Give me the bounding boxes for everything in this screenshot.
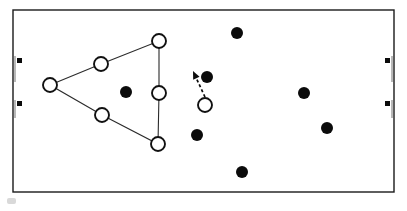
player-marker-filled-7 xyxy=(321,122,333,134)
player-marker-open-6 xyxy=(95,108,109,122)
player-marker-filled-3 xyxy=(231,27,243,39)
left-goal-cap-bottom xyxy=(17,101,22,106)
player-marker-filled-4 xyxy=(191,129,203,141)
player-marker-open-4 xyxy=(152,86,166,100)
player-marker-open-3 xyxy=(152,34,166,48)
left-goal-cap-top xyxy=(17,58,22,63)
player-marker-open-5 xyxy=(151,137,165,151)
player-marker-filled-1 xyxy=(120,86,132,98)
figure-canvas xyxy=(0,0,407,211)
player-marker-filled-2 xyxy=(201,71,213,83)
player-marker-open-7 xyxy=(198,98,212,112)
player-marker-open-2 xyxy=(94,57,108,71)
player-marker-filled-6 xyxy=(298,87,310,99)
right-goal-cap-top xyxy=(385,58,390,63)
player-marker-open-1 xyxy=(43,78,57,92)
player-marker-filled-5 xyxy=(236,166,248,178)
right-goal-cap-bottom xyxy=(385,101,390,106)
tactical-diagram xyxy=(0,0,407,211)
scan-smudge xyxy=(7,198,16,204)
